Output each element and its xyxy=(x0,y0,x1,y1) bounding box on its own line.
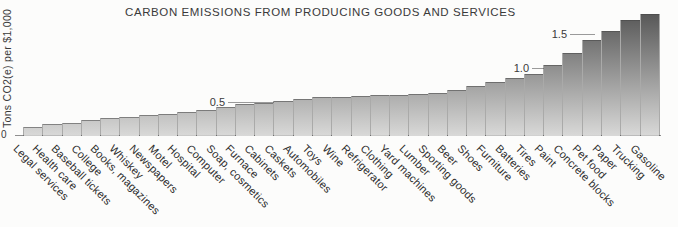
bar-furniture xyxy=(485,82,504,136)
bar-shoes xyxy=(466,86,485,136)
bar-concrete-blocks xyxy=(562,53,581,136)
bar-newspapers xyxy=(139,115,158,136)
y-axis-label: Tons CO2(e) per $1,000 xyxy=(1,9,13,128)
chart-figure: CARBON EMISSIONS FROM PRODUCING GOODS AN… xyxy=(0,0,678,227)
bar-clothing xyxy=(370,95,389,136)
bar-sporting-goods xyxy=(428,93,447,137)
bar-toys xyxy=(312,97,331,136)
bar-paint xyxy=(543,65,562,136)
bar-lumber xyxy=(408,94,427,136)
bar-tires xyxy=(524,74,543,136)
bar-pet-food xyxy=(582,40,601,136)
y-axis-origin-tick: 0 xyxy=(1,129,7,140)
bar-soap-cosmetics xyxy=(216,107,235,136)
bar-refrigerator xyxy=(351,96,370,136)
bar-automobiles xyxy=(293,99,312,136)
bar-yard-machines xyxy=(389,95,408,137)
bar-trucking xyxy=(620,20,639,136)
bar-beer xyxy=(447,90,466,136)
bar-health-care xyxy=(42,124,61,136)
bar-college xyxy=(81,120,100,136)
bar-wine xyxy=(331,97,350,136)
bar-hospital xyxy=(177,112,196,136)
bar-gasoline xyxy=(640,14,660,136)
bars-container xyxy=(23,6,660,136)
bar-legal-services xyxy=(23,127,42,136)
bar-paper xyxy=(601,31,620,136)
bar-motel xyxy=(158,114,177,136)
bar-whiskey xyxy=(119,117,138,136)
plot-area: 0.51.01.5 xyxy=(23,6,660,136)
bar-computer xyxy=(196,110,215,136)
bar-caskets xyxy=(273,101,292,136)
bar-batteries xyxy=(505,78,524,136)
bar-baseball-tickets xyxy=(62,123,81,136)
bar-cabinets xyxy=(254,103,273,136)
bar-furnace xyxy=(235,104,254,136)
bar-books-magazines xyxy=(100,118,119,136)
